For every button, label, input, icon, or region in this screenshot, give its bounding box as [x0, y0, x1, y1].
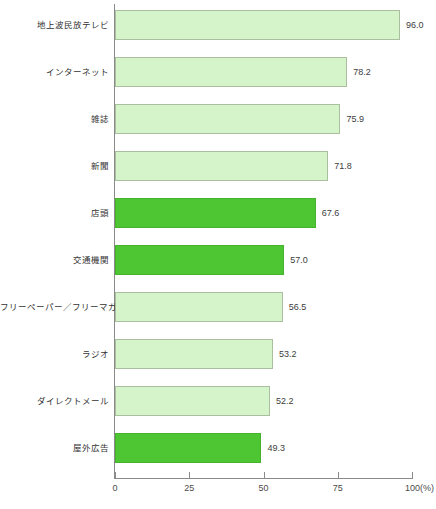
- category-label: 雑誌: [0, 104, 109, 134]
- x-axis-tick-label: 100(%): [405, 483, 434, 493]
- category-label: ダイレクトメール: [0, 386, 109, 416]
- bar-row: 店頭67.6: [0, 198, 436, 228]
- x-axis-tick-mark: [189, 472, 190, 478]
- bar-value-label: 71.8: [334, 151, 352, 181]
- bar: [115, 339, 273, 369]
- bar-value-label: 53.2: [279, 339, 297, 369]
- bar-value-label: 78.2: [353, 57, 371, 87]
- x-axis-tick-label: 75: [333, 483, 343, 493]
- category-label: 地上波民放テレビ: [0, 10, 109, 40]
- category-label: 新聞: [0, 151, 109, 181]
- x-axis-tick-mark: [338, 472, 339, 478]
- bar-row: ラジオ53.2: [0, 339, 436, 369]
- bar-row: 地上波民放テレビ96.0: [0, 10, 436, 40]
- x-axis-line: [114, 478, 413, 479]
- category-label: 屋外広告: [0, 433, 109, 463]
- bar-row: 屋外広告49.3: [0, 433, 436, 463]
- bar-value-label: 57.0: [290, 245, 308, 275]
- bar-value-label: 96.0: [406, 10, 424, 40]
- bar-row: インターネット78.2: [0, 57, 436, 87]
- x-axis-tick-label: 50: [258, 483, 268, 493]
- bar-value-label: 52.2: [276, 386, 294, 416]
- bar-row: 新聞71.8: [0, 151, 436, 181]
- bar: [115, 386, 270, 416]
- x-axis-tick-mark: [264, 472, 265, 478]
- bar: [115, 104, 340, 134]
- x-axis-tick-label: 0: [112, 483, 117, 493]
- bar: [115, 57, 347, 87]
- category-label: インターネット: [0, 57, 109, 87]
- bar-value-label: 49.3: [267, 433, 285, 463]
- bar: [115, 433, 261, 463]
- x-axis-tick-label: 25: [184, 483, 194, 493]
- bar: [115, 10, 400, 40]
- bar-row: 雑誌75.9: [0, 104, 436, 134]
- category-label: 交通機関: [0, 245, 109, 275]
- category-label: フリーペーパー／フリーマガジン: [0, 292, 109, 322]
- bar: [115, 245, 284, 275]
- bar-row: 交通機関57.0: [0, 245, 436, 275]
- bar-value-label: 67.6: [322, 198, 340, 228]
- bar: [115, 292, 283, 322]
- x-axis-tick-mark: [412, 472, 413, 478]
- bar-value-label: 56.5: [289, 292, 307, 322]
- category-label: 店頭: [0, 198, 109, 228]
- bar-chart: 地上波民放テレビ96.0インターネット78.2雑誌75.9新聞71.8店頭67.…: [0, 0, 436, 509]
- category-label: ラジオ: [0, 339, 109, 369]
- bar-row: フリーペーパー／フリーマガジン56.5: [0, 292, 436, 322]
- bar-value-label: 75.9: [346, 104, 364, 134]
- bar: [115, 198, 316, 228]
- x-axis-tick-mark: [115, 472, 116, 478]
- bar-row: ダイレクトメール52.2: [0, 386, 436, 416]
- bar: [115, 151, 328, 181]
